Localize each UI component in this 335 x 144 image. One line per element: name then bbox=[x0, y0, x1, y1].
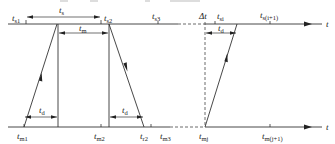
label-tm1: tm1 bbox=[17, 131, 28, 142]
label-tsi: tsi bbox=[217, 11, 224, 22]
label-ts3: ts3 bbox=[152, 11, 160, 22]
label-ts1: ts1 bbox=[12, 13, 20, 24]
label-tm2: tm2 bbox=[94, 131, 105, 142]
tm-dimension: tm bbox=[59, 23, 108, 35]
top-axis-arrow-icon bbox=[304, 22, 312, 27]
timing-diagram: t ts1 ts2 ts3 tsi ts(i+1) ts t tm1 tm2 t… bbox=[0, 0, 335, 144]
label-ts: ts bbox=[59, 5, 65, 16]
bottom-axis: t bbox=[8, 122, 329, 132]
arrow-right-icon bbox=[230, 31, 236, 34]
top-axis-label: t bbox=[326, 19, 329, 29]
label-td-mid: td bbox=[122, 105, 129, 116]
top-ticks bbox=[26, 20, 270, 24]
label-delta-t: Δt bbox=[198, 11, 207, 21]
arrow-left-icon bbox=[206, 31, 212, 34]
label-td-right: td bbox=[218, 23, 225, 34]
arrow-left-icon bbox=[59, 31, 65, 34]
arrow-right-icon bbox=[102, 31, 108, 34]
ts-dimension: ts bbox=[27, 5, 100, 19]
td-dimension-right: td bbox=[206, 23, 236, 35]
arrow-right-icon bbox=[94, 15, 100, 18]
label-tm: tm bbox=[79, 23, 87, 34]
label-tr2: tr2 bbox=[140, 131, 148, 142]
td-dimension-left: td bbox=[25, 105, 57, 119]
label-tm3: tm3 bbox=[160, 131, 171, 142]
td-dimension-mid: td bbox=[110, 105, 143, 119]
arrow-left-icon bbox=[110, 115, 116, 118]
arrow-left-icon bbox=[27, 15, 33, 18]
label-tsi1: ts(i+1) bbox=[260, 10, 278, 22]
cropped-top-fragments bbox=[60, 0, 200, 2]
label-tmj: tmj bbox=[199, 131, 209, 142]
bottom-axis-label: t bbox=[326, 122, 329, 132]
arrow-right-icon bbox=[51, 115, 57, 118]
diagonal-up-right bbox=[205, 24, 237, 127]
label-ts2: ts2 bbox=[104, 13, 112, 24]
label-td-left: td bbox=[39, 105, 46, 116]
label-tmj1: tm(j+1) bbox=[262, 131, 283, 143]
bottom-axis-arrow-icon bbox=[304, 125, 312, 130]
